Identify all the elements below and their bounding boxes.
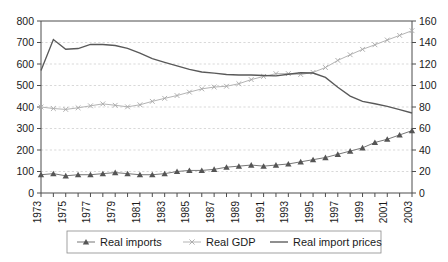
series-marker-imports [359, 145, 365, 151]
x-axis-tick-label: 2001 [378, 201, 389, 224]
x-axis-tick-label: 1981 [131, 201, 142, 224]
chart-container: 0100200300400500600700800020406080100120… [0, 0, 448, 262]
y-axis-tick-label: 400 [16, 101, 34, 113]
y2-axis-tick-label: 140 [419, 36, 437, 48]
y2-axis-tick-label: 60 [419, 122, 431, 134]
legend-label-2: Real GDP [206, 236, 256, 248]
legend-label-1: Real imports [100, 236, 162, 248]
y2-axis-tick-label: 120 [419, 58, 437, 70]
x-axis-tick-label: 1993 [279, 201, 290, 224]
x-axis-tick-label: 1977 [81, 201, 92, 224]
y2-axis-tick-label: 0 [419, 187, 425, 199]
x-axis-tick-label: 1983 [156, 201, 167, 224]
y-axis-tick-label: 0 [28, 187, 34, 199]
y2-axis-tick-label: 100 [419, 79, 437, 91]
x-axis-tick-label: 1999 [354, 201, 365, 224]
y-axis-tick-label: 700 [16, 36, 34, 48]
series-marker-imports [396, 132, 402, 138]
series-line-3 [41, 40, 412, 113]
y-axis-tick-label: 500 [16, 79, 34, 91]
y-axis-tick-label: 200 [16, 144, 34, 156]
y2-axis-tick-label: 80 [419, 101, 431, 113]
legend-label-3: Real import prices [293, 236, 382, 248]
y2-axis-tick-label: 20 [419, 165, 431, 177]
series-marker-imports [384, 136, 390, 142]
x-axis-tick-label: 1995 [304, 201, 315, 224]
x-axis-tick-label: 1973 [32, 201, 43, 224]
y-axis-tick-label: 800 [16, 15, 34, 27]
x-axis-tick-label: 1987 [205, 201, 216, 224]
x-axis-tick-label: 1997 [329, 201, 340, 224]
y-axis-tick-label: 100 [16, 165, 34, 177]
line-chart: 0100200300400500600700800020406080100120… [0, 0, 448, 262]
y-axis-tick-label: 300 [16, 122, 34, 134]
x-axis-tick-label: 2003 [403, 201, 414, 224]
x-axis-tick-label: 1979 [106, 201, 117, 224]
y2-axis-tick-label: 40 [419, 144, 431, 156]
x-axis-tick-label: 1975 [57, 201, 68, 224]
x-axis-tick-label: 1991 [255, 201, 266, 224]
x-axis-tick-label: 1989 [230, 201, 241, 224]
x-axis-tick-label: 1985 [180, 201, 191, 224]
y2-axis-tick-label: 160 [419, 15, 437, 27]
y-axis-tick-label: 600 [16, 58, 34, 70]
